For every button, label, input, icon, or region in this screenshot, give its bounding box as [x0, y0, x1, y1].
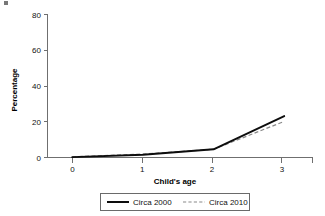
chart-figure: 80 60 40 20 0 Percentage 0 1 2 3 Child's… — [0, 0, 325, 216]
y-axis-title: Percentage — [10, 68, 19, 112]
y-tick-label-40: 40 — [32, 82, 41, 91]
legend-label-circa-2000: Circa 2000 — [133, 198, 172, 207]
chart-legend: Circa 2000 Circa 2010 — [101, 194, 250, 211]
y-tick-label-20: 20 — [32, 118, 41, 127]
series-line-circa-2000 — [72, 116, 284, 157]
y-tick-label-0: 0 — [37, 154, 42, 163]
legend-label-circa-2010: Circa 2010 — [209, 198, 248, 207]
x-tick-label-1: 1 — [140, 165, 145, 174]
x-axis-title: Child's age — [154, 177, 197, 186]
y-tick-label-80: 80 — [32, 11, 41, 20]
x-tick-label-3: 3 — [280, 165, 285, 174]
y-tick-labels: 80 60 40 20 0 — [32, 11, 41, 163]
y-tick-label-60: 60 — [32, 46, 41, 55]
x-tick-labels: 0 1 2 3 — [70, 165, 284, 174]
plot-series-group — [72, 116, 284, 157]
y-axis — [44, 15, 48, 158]
x-tick-label-2: 2 — [210, 165, 215, 174]
x-axis — [48, 158, 313, 163]
chart-canvas: 80 60 40 20 0 Percentage 0 1 2 3 Child's… — [0, 0, 325, 216]
x-tick-label-0: 0 — [70, 165, 75, 174]
